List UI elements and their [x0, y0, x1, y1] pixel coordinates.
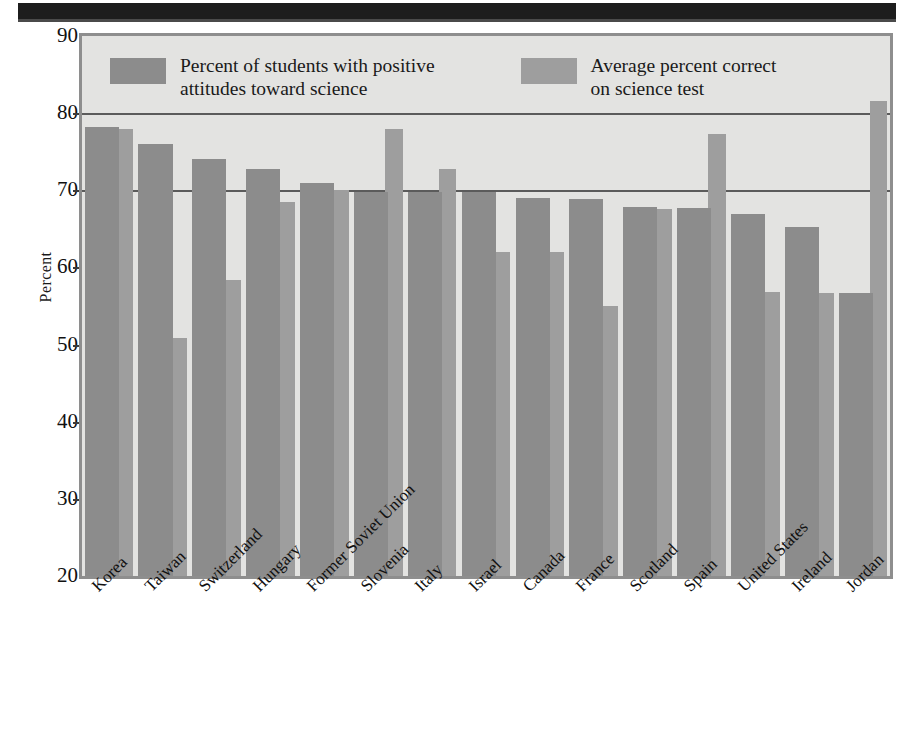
y-tick-label-30: 30: [18, 488, 78, 509]
bar-attitude-france: [569, 199, 603, 576]
bar-attitude-jordan: [839, 293, 873, 576]
y-tick-label-20: 20: [18, 565, 78, 586]
y-tick-label-50: 50: [18, 334, 78, 355]
bar-attitude-scotland: [623, 207, 657, 576]
chart-page: Percent 9080706050403020 Percent of stud…: [0, 0, 908, 746]
legend-item-attitude: Percent of students with positive attitu…: [110, 54, 435, 100]
bar-attitude-united-states: [731, 214, 765, 576]
bar-attitude-israel: [462, 192, 496, 576]
bar-attitude-taiwan: [138, 144, 172, 576]
legend-label-attitude: Percent of students with positive attitu…: [180, 54, 435, 100]
bar-attitude-italy: [408, 192, 442, 576]
legend-label-science: Average percent correct on science test: [591, 54, 777, 100]
plot-inner: [82, 36, 890, 576]
bar-attitude-korea: [85, 127, 119, 576]
bar-attitude-spain: [677, 208, 711, 576]
legend-swatch-science-icon: [521, 58, 577, 84]
gridline-80: [82, 113, 890, 115]
y-tick-label-90: 90: [18, 25, 78, 46]
bar-attitude-hungary: [246, 169, 280, 576]
bar-attitude-canada: [516, 198, 550, 576]
y-tick-label-70: 70: [18, 179, 78, 200]
bar-attitude-switzerland: [192, 159, 226, 576]
bar-attitude-former-soviet-union: [300, 183, 334, 576]
y-tick-label-60: 60: [18, 256, 78, 277]
plot-area: Percent of students with positive attitu…: [79, 33, 893, 579]
y-tick-label-40: 40: [18, 411, 78, 432]
page-header-band: [18, 3, 896, 19]
legend-swatch-attitude-icon: [110, 58, 166, 84]
chart-legend: Percent of students with positive attitu…: [110, 54, 776, 100]
legend-item-science: Average percent correct on science test: [521, 54, 777, 100]
y-tick-label-80: 80: [18, 102, 78, 123]
x-axis-labels: KoreaTaiwanSwitzerlandHungaryFormer Sovi…: [79, 582, 893, 732]
